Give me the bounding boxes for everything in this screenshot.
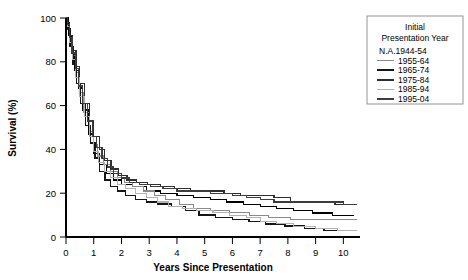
x-tick-label: 5: [202, 247, 207, 258]
legend-label-4: 1985-94: [398, 84, 429, 94]
x-tick-label: 2: [119, 247, 124, 258]
legend-title-line1: Initial: [405, 22, 425, 32]
legend-label-0: N.A.1944-54: [379, 46, 427, 56]
x-axis-title: Years Since Presentation: [153, 262, 273, 273]
x-tick-label: 4: [174, 247, 179, 258]
legend-label-3: 1975-84: [398, 75, 429, 85]
legend-title-line2: Presentation Year: [381, 33, 448, 43]
legend-label-5: 1995-04: [398, 94, 429, 104]
x-tick-label: 7: [258, 247, 263, 258]
y-axis-title: Survival (%): [7, 99, 18, 156]
survival-curve-chart: 020406080100 012345678910 Survival (%) Y…: [0, 0, 468, 280]
legend-label-1: 1955-64: [398, 56, 429, 66]
x-tick-label: 3: [147, 247, 152, 258]
y-tick-label: 40: [45, 144, 56, 155]
y-tick-label: 0: [51, 232, 56, 243]
x-tick-label: 10: [338, 247, 349, 258]
legend-label-2: 1965-74: [398, 65, 429, 75]
x-tick-label: 8: [285, 247, 290, 258]
y-tick-label: 100: [40, 13, 56, 24]
x-tick-label: 9: [313, 247, 318, 258]
x-tick-label: 1: [91, 247, 96, 258]
y-tick-label: 80: [45, 56, 56, 67]
x-tick-label: 6: [230, 247, 235, 258]
y-tick-label: 20: [45, 188, 56, 199]
y-tick-label: 60: [45, 100, 56, 111]
legend: Initial Presentation Year N.A.1944-54195…: [367, 16, 463, 104]
legend-item-0[interactable]: N.A.1944-54: [379, 46, 427, 56]
x-tick-label: 0: [63, 247, 68, 258]
